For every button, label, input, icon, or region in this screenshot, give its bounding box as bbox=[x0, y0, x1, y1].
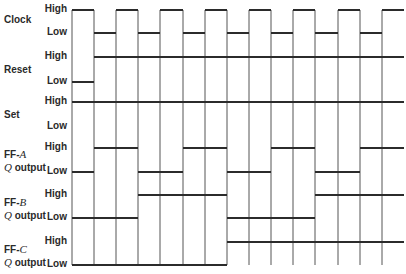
level-label-low: Low bbox=[35, 211, 67, 222]
level-label-low: Low bbox=[35, 120, 67, 131]
level-label-high: High bbox=[35, 235, 67, 246]
signal-label-reset: Reset bbox=[4, 64, 31, 76]
signal-label-clock: Clock bbox=[4, 14, 31, 26]
level-label-low: Low bbox=[35, 75, 67, 86]
signal-label-set: Set bbox=[4, 109, 20, 121]
level-label-low: Low bbox=[35, 165, 67, 176]
level-label-high: High bbox=[35, 50, 67, 61]
level-label-high: High bbox=[35, 95, 67, 106]
level-label-high: High bbox=[35, 3, 67, 14]
timing-diagram bbox=[0, 0, 406, 274]
level-label-high: High bbox=[35, 141, 67, 152]
level-label-low: Low bbox=[35, 258, 67, 269]
level-label-high: High bbox=[35, 188, 67, 199]
level-label-low: Low bbox=[35, 26, 67, 37]
